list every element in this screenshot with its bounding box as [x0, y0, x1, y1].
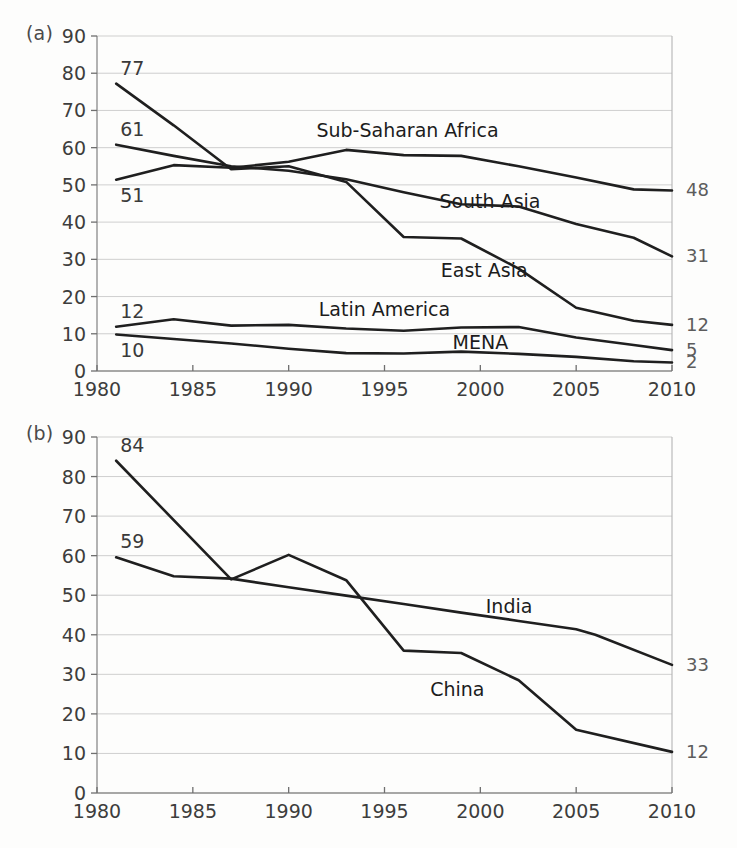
end-value-east-asia: 12 — [686, 314, 709, 335]
y-tick-label: 70 — [62, 99, 86, 121]
start-value-east-asia: 77 — [120, 57, 144, 79]
series-label-china: China — [430, 678, 484, 700]
y-tick-label: 50 — [62, 584, 86, 606]
y-tick-label: 70 — [62, 505, 86, 527]
start-value-latin-america: 12 — [120, 300, 144, 322]
chart-panel-b: (b) 010203040506070809019801985199019952… — [0, 400, 737, 848]
x-tick-label: 2010 — [648, 800, 696, 822]
end-value-india: 33 — [686, 654, 709, 675]
data-line-sub-saharan-africa — [116, 150, 672, 191]
start-value-south-asia: 61 — [120, 118, 144, 140]
panel-b-plot: 0102030405060708090198019851990199520002… — [0, 400, 737, 848]
y-tick-label: 80 — [62, 62, 86, 84]
series-label-sub-saharan-africa: Sub-Saharan Africa — [316, 119, 498, 141]
start-value-china: 84 — [120, 434, 144, 456]
x-tick-label: 1995 — [360, 800, 408, 822]
x-tick-label: 1995 — [360, 378, 408, 400]
x-tick-label: 2000 — [456, 378, 504, 400]
y-tick-label: 50 — [62, 174, 86, 196]
y-tick-label: 10 — [62, 742, 86, 764]
x-tick-label: 2000 — [456, 800, 504, 822]
y-tick-label: 60 — [62, 137, 86, 159]
series-label-east-asia: East Asia — [441, 259, 528, 281]
x-tick-label: 1990 — [264, 378, 312, 400]
series-label-latin-america: Latin America — [319, 298, 450, 320]
end-value-china: 12 — [686, 741, 709, 762]
end-value-sub-saharan-africa: 48 — [686, 179, 709, 200]
series-label-india: India — [486, 595, 533, 617]
x-tick-label: 1985 — [169, 800, 217, 822]
y-tick-label: 40 — [62, 211, 86, 233]
y-tick-label: 10 — [62, 323, 86, 345]
data-line-south-asia — [116, 145, 672, 257]
chart-panel-a: (a) 010203040506070809019801985199019952… — [0, 0, 737, 400]
y-tick-label: 40 — [62, 624, 86, 646]
data-line-latin-america — [116, 319, 672, 350]
data-line-india — [116, 557, 672, 665]
x-tick-label: 2005 — [552, 800, 600, 822]
panel-a-plot: 0102030405060708090198019851990199520002… — [0, 0, 737, 400]
x-tick-label: 1980 — [73, 800, 121, 822]
y-tick-label: 20 — [62, 703, 86, 725]
y-tick-label: 20 — [62, 286, 86, 308]
start-value-sub-saharan-africa: 51 — [120, 184, 144, 206]
y-tick-label: 90 — [62, 25, 86, 47]
y-tick-label: 80 — [62, 466, 86, 488]
x-tick-label: 1990 — [264, 800, 312, 822]
series-label-south-asia: South Asia — [439, 190, 540, 212]
y-tick-label: 30 — [62, 663, 86, 685]
x-tick-label: 1980 — [73, 378, 121, 400]
start-value-mena: 10 — [120, 339, 144, 361]
start-value-india: 59 — [120, 530, 144, 552]
data-line-china — [116, 461, 672, 752]
x-tick-label: 2010 — [648, 378, 696, 400]
y-tick-label: 30 — [62, 248, 86, 270]
series-label-mena: MENA — [453, 331, 509, 353]
end-value-mena: 2 — [686, 351, 697, 372]
y-tick-label: 90 — [62, 426, 86, 448]
y-tick-label: 60 — [62, 545, 86, 567]
x-tick-label: 2005 — [552, 378, 600, 400]
figure-container: (a) 010203040506070809019801985199019952… — [0, 0, 737, 848]
end-value-south-asia: 31 — [686, 245, 709, 266]
x-tick-label: 1985 — [169, 378, 217, 400]
